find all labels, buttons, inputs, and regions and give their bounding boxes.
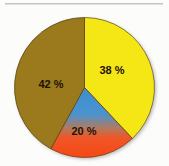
pie-chart-page: 38 % 20 % 42 % xyxy=(0,0,169,166)
pie-slice-label-red: 20 % xyxy=(71,125,96,137)
pie-chart-svg: 38 % 20 % 42 % xyxy=(0,0,169,166)
pie-slice-label-yellow: 38 % xyxy=(99,64,124,76)
pie-chart-container: 38 % 20 % 42 % xyxy=(0,0,169,166)
pie-slice-label-brown: 42 % xyxy=(38,78,63,90)
